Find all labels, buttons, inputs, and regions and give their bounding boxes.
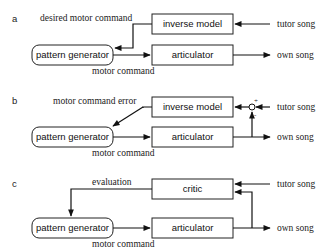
motor-command-label: motor command <box>92 239 155 249</box>
pattern-generator-label: pattern generator <box>36 49 109 60</box>
panel-c: c critic articulator pattern generator t… <box>12 177 316 249</box>
critic-box: critic <box>152 179 233 199</box>
evaluation-label: evaluation <box>92 177 132 187</box>
articulator-label: articulator <box>172 49 214 60</box>
own-song-label: own song <box>277 50 314 60</box>
pattern-generator-box: pattern generator <box>32 45 113 65</box>
articulator-box: articulator <box>152 127 233 147</box>
motor-command-label: motor command <box>92 66 155 76</box>
motor-learning-diagram: a inverse model articulator pattern gene… <box>0 0 332 250</box>
pattern-generator-label: pattern generator <box>36 222 109 233</box>
articulator-box: articulator <box>152 218 233 238</box>
own-song-label: own song <box>277 223 314 233</box>
critic-label: critic <box>183 183 203 194</box>
articulator-label: articulator <box>172 131 214 142</box>
inverse-model-label: inverse model <box>163 101 222 112</box>
panel-c-label: c <box>12 178 17 189</box>
pattern-generator-label: pattern generator <box>36 131 109 142</box>
own-song-feedback-arrow <box>235 192 252 228</box>
tutor-song-label: tutor song <box>277 179 316 189</box>
inverse-model-label: inverse model <box>163 18 222 29</box>
junction-minus-sign: - <box>254 111 257 119</box>
motor-command-error-label: motor command error <box>53 96 137 106</box>
panel-a: a inverse model articulator pattern gene… <box>12 13 316 76</box>
inverse-model-box: inverse model <box>152 97 233 117</box>
evaluation-arrow <box>71 189 152 216</box>
panel-a-label: a <box>12 13 18 24</box>
articulator-label: articulator <box>172 222 214 233</box>
pattern-generator-box: pattern generator <box>32 127 113 147</box>
tutor-song-label: tutor song <box>277 102 316 112</box>
motor-command-label: motor command <box>92 148 155 158</box>
desired-motor-command-arrow <box>115 24 152 48</box>
tutor-song-label: tutor song <box>277 19 316 29</box>
inverse-model-box: inverse model <box>152 14 233 34</box>
panel-b: b inverse model articulator pattern gene… <box>12 95 316 158</box>
panel-b-label: b <box>12 95 17 106</box>
motor-command-error-arrow <box>113 107 143 126</box>
pattern-generator-box: pattern generator <box>32 218 113 238</box>
own-song-label: own song <box>277 132 314 142</box>
junction-plus-sign: + <box>254 97 258 105</box>
motor-command-error-line <box>143 107 152 108</box>
desired-motor-command-label: desired motor command <box>40 13 133 23</box>
articulator-box: articulator <box>152 45 233 65</box>
